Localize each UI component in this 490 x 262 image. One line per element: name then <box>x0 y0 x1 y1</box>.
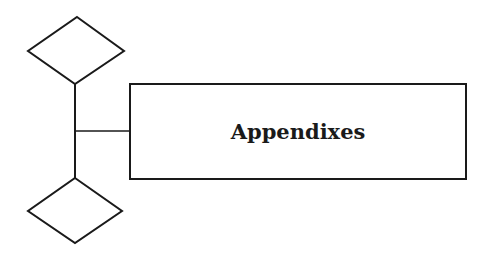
top-diamond <box>28 17 124 84</box>
bottom-diamond <box>28 178 122 243</box>
appendixes-label: Appendixes <box>130 84 466 179</box>
